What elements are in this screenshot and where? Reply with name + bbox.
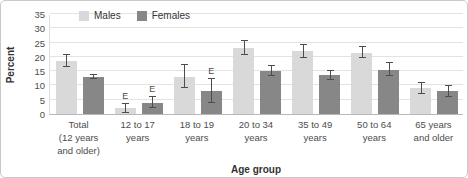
category-label: 12 to 17 years xyxy=(108,118,167,157)
males-error-cap-bottom xyxy=(122,112,129,113)
males-bar xyxy=(292,51,313,114)
females-error-cap-bottom xyxy=(268,75,275,76)
females-swatch-icon xyxy=(137,11,147,21)
females-error-cap-bottom xyxy=(445,96,452,97)
gridline-30 xyxy=(50,27,463,28)
males-error-cap-top xyxy=(300,44,307,45)
y-tick-label-30: 30 xyxy=(34,24,45,34)
y-tick-label-15: 15 xyxy=(34,67,45,77)
males-error-cap-bottom xyxy=(181,87,188,88)
females-bar xyxy=(319,75,340,114)
males-error-cap-top xyxy=(359,46,366,47)
category-label: 20 to 34 years xyxy=(226,118,285,157)
category-label: 65 years and older xyxy=(404,118,463,157)
legend-label-females: Females xyxy=(152,10,190,21)
gridline-5 xyxy=(50,99,463,100)
males-error-cap-top xyxy=(241,40,248,41)
females-error-cap-bottom xyxy=(386,75,393,76)
males-swatch-icon xyxy=(79,11,89,21)
males-error-bar xyxy=(184,65,185,88)
males-error-cap-top xyxy=(63,54,70,55)
plot-area: EEE xyxy=(49,15,463,115)
legend-item-males: Males xyxy=(79,10,121,21)
y-tick-label-20: 20 xyxy=(34,53,45,63)
females-bar xyxy=(260,71,281,114)
females-error-cap-bottom xyxy=(208,102,215,103)
females-error-cap-top xyxy=(208,78,215,79)
category-label: 18 to 19 years xyxy=(167,118,226,157)
males-estimate-flag: E xyxy=(120,92,130,101)
females-error-cap-bottom xyxy=(90,78,97,79)
males-bar xyxy=(351,53,372,114)
females-error-cap-bottom xyxy=(327,79,334,80)
males-error-cap-bottom xyxy=(418,93,425,94)
gridline-10 xyxy=(50,84,463,85)
y-tick-label-10: 10 xyxy=(34,81,45,91)
males-error-cap-top xyxy=(181,64,188,65)
category-label: Total (12 years and older) xyxy=(49,118,108,157)
category-label: 50 to 64 years xyxy=(345,118,404,157)
males-bar xyxy=(56,61,77,114)
bar-chart-figure: Percent 05101520253035 Males Females EEE… xyxy=(0,0,468,178)
gridline-15 xyxy=(50,70,463,71)
females-error-cap-top xyxy=(149,96,156,97)
males-error-cap-bottom xyxy=(300,57,307,58)
males-error-bar xyxy=(244,41,245,55)
females-error-cap-top xyxy=(327,70,334,71)
females-bar xyxy=(378,70,399,114)
y-axis-ticks: 05101520253035 xyxy=(21,15,45,115)
males-error-cap-top xyxy=(122,103,129,104)
y-tick-label-0: 0 xyxy=(40,110,45,120)
x-axis-category-labels: Total (12 years and older)12 to 17 years… xyxy=(49,118,463,157)
y-axis-title-wrap: Percent xyxy=(3,15,17,115)
males-error-cap-bottom xyxy=(359,57,366,58)
males-error-cap-bottom xyxy=(63,66,70,67)
females-error-cap-top xyxy=(386,62,393,63)
males-error-cap-top xyxy=(418,82,425,83)
y-axis-title: Percent xyxy=(5,47,16,84)
gridline-25 xyxy=(50,42,463,43)
legend-item-females: Females xyxy=(137,10,190,21)
legend: Males Females xyxy=(79,10,190,21)
y-tick-label-5: 5 xyxy=(40,96,45,106)
males-error-cap-bottom xyxy=(241,54,248,55)
females-estimate-flag: E xyxy=(147,85,157,94)
females-bar xyxy=(83,77,104,114)
females-error-cap-top xyxy=(268,65,275,66)
y-tick-label-35: 35 xyxy=(34,10,45,20)
x-axis-title-wrap: Age group xyxy=(49,159,463,177)
legend-label-males: Males xyxy=(94,10,121,21)
x-axis-title: Age group xyxy=(231,164,281,175)
gridline-20 xyxy=(50,56,463,57)
males-bar xyxy=(233,48,254,114)
females-error-cap-top xyxy=(445,85,452,86)
females-error-bar xyxy=(211,79,212,104)
y-tick-label-25: 25 xyxy=(34,39,45,49)
females-error-cap-bottom xyxy=(149,107,156,108)
category-label: 35 to 49 years xyxy=(286,118,345,157)
females-error-cap-top xyxy=(90,74,97,75)
females-estimate-flag: E xyxy=(206,67,216,76)
